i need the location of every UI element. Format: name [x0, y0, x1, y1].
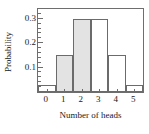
y-axis-minor-tick — [38, 71, 41, 72]
y-axis-tick-labels: 0.10.20.3 — [14, 0, 36, 134]
x-axis-tick-label: 2 — [74, 95, 88, 104]
y-axis-tick-label: 0.2 — [25, 38, 36, 47]
x-axis-tick — [117, 89, 118, 92]
y-axis-minor-tick — [38, 76, 41, 77]
bar — [108, 55, 126, 92]
y-axis-minor-tick — [38, 62, 41, 63]
x-axis-title: Number of heads — [37, 110, 144, 120]
y-axis-title: Probability — [3, 17, 13, 87]
y-axis-minor-tick — [38, 32, 41, 33]
x-axis-tick — [64, 89, 65, 92]
x-axis-tick-label: 1 — [56, 95, 70, 104]
plot-area — [37, 8, 144, 93]
x-axis-tick — [82, 89, 83, 92]
y-axis-minor-tick — [38, 81, 41, 82]
x-axis-tick-label: 4 — [109, 95, 123, 104]
y-axis-major-tick — [38, 42, 43, 43]
y-axis-tick-label: 0.1 — [25, 62, 36, 71]
y-axis-minor-tick — [38, 57, 41, 58]
y-axis-minor-tick — [38, 8, 41, 9]
bars-group — [38, 9, 143, 92]
y-axis-tick-label: 0.3 — [25, 13, 36, 22]
x-axis-tick — [47, 89, 48, 92]
y-axis-minor-tick — [38, 52, 41, 53]
y-axis-major-tick — [38, 18, 43, 19]
y-axis-minor-tick — [38, 47, 41, 48]
bar — [91, 19, 109, 92]
x-axis-tick-labels: 012345 — [37, 95, 144, 107]
y-axis-minor-tick — [38, 28, 41, 29]
y-axis-minor-tick — [38, 37, 41, 38]
y-axis-major-tick — [38, 67, 43, 68]
x-axis-tick — [99, 89, 100, 92]
bar — [56, 55, 74, 92]
x-axis-tick-label: 0 — [39, 95, 53, 104]
y-axis-minor-tick — [38, 13, 41, 14]
x-axis-tick — [134, 89, 135, 92]
probability-bar-chart: Probability 0.10.20.3 012345 Number of h… — [0, 0, 149, 134]
bar — [73, 19, 91, 92]
y-axis-minor-tick — [38, 86, 41, 87]
x-axis-tick-label: 5 — [126, 95, 140, 104]
x-axis-tick-label: 3 — [91, 95, 105, 104]
y-axis-minor-tick — [38, 23, 41, 24]
